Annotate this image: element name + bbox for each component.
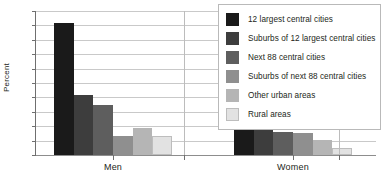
y-tick-mark xyxy=(32,83,36,84)
legend-item[interactable]: 12 largest central cities xyxy=(219,10,380,29)
legend-item[interactable]: Rural areas xyxy=(219,105,380,124)
group-separator xyxy=(184,11,185,155)
y-tick-mark xyxy=(32,97,36,98)
legend-swatch-icon xyxy=(226,32,239,45)
bar xyxy=(74,95,94,155)
legend-item-label: 12 largest central cities xyxy=(248,15,333,24)
y-tick-mark xyxy=(32,126,36,127)
legend-item-label: Suburbs of 12 largest central cities xyxy=(248,34,375,43)
y-tick-mark xyxy=(32,112,36,113)
legend-item-label: Next 88 central cities xyxy=(248,53,325,62)
y-tick-mark xyxy=(32,141,36,142)
legend-item[interactable]: Other urban areas xyxy=(219,86,380,105)
category-label-women: Women xyxy=(253,162,333,172)
y-tick-mark xyxy=(32,155,36,156)
y-tick-mark xyxy=(32,11,36,12)
bar xyxy=(93,105,113,155)
bar xyxy=(313,140,333,155)
category-tick xyxy=(293,155,294,160)
y-tick-mark xyxy=(32,25,36,26)
y-axis-title-text: Percent xyxy=(2,63,11,92)
legend-item-label: Other urban areas xyxy=(248,91,315,100)
legend-swatch-icon xyxy=(226,70,239,83)
legend-item-label: Rural areas xyxy=(248,110,291,119)
y-tick-mark xyxy=(32,69,36,70)
category-label-men: Men xyxy=(73,162,153,172)
category-tick xyxy=(113,155,114,160)
bar xyxy=(332,148,352,155)
bar xyxy=(113,136,133,155)
bar-chart-figure: Percent 012345678910 MenWomen 12 largest… xyxy=(0,0,383,181)
bar xyxy=(54,23,74,155)
gridline xyxy=(36,155,376,156)
legend-swatch-icon xyxy=(226,13,239,26)
legend-item[interactable]: Suburbs of next 88 central cities xyxy=(219,67,380,86)
legend-swatch-icon xyxy=(226,108,239,121)
y-tick-mark xyxy=(32,40,36,41)
group-boundary-tick xyxy=(339,155,340,160)
legend-item[interactable]: Next 88 central cities xyxy=(219,48,380,67)
y-tick-mark xyxy=(32,54,36,55)
legend-item-label: Suburbs of next 88 central cities xyxy=(248,72,366,81)
legend-item[interactable]: Suburbs of 12 largest central cities xyxy=(219,29,380,48)
bar xyxy=(293,133,313,155)
bar xyxy=(152,136,172,155)
group-boundary-tick xyxy=(184,155,185,160)
y-axis-title: Percent xyxy=(0,0,12,155)
bar xyxy=(254,128,274,155)
bar xyxy=(133,128,153,155)
legend-swatch-icon xyxy=(226,51,239,64)
legend-swatch-icon xyxy=(226,89,239,102)
legend: 12 largest central citiesSuburbs of 12 l… xyxy=(218,4,381,130)
bar xyxy=(273,132,293,155)
